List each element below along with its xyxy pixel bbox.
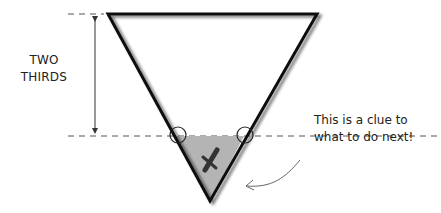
curved-pointer-arrow <box>246 160 300 190</box>
two-thirds-label-line-2: THIRDS <box>0 69 88 86</box>
diagram-canvas <box>0 0 441 213</box>
clue-annotation-line-1: This is a clue to <box>314 112 413 129</box>
two-thirds-label: TWO THIRDS <box>0 52 88 86</box>
clue-annotation: This is a clue to what to do next! <box>314 112 413 146</box>
shaded-tip-region <box>176 136 244 201</box>
clue-annotation-line-2: what to do next! <box>314 129 413 146</box>
two-thirds-label-line-1: TWO <box>0 52 88 69</box>
